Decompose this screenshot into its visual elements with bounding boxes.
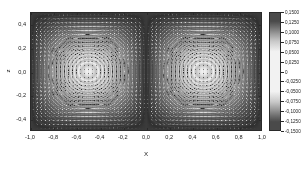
x-axis-title: X (144, 150, 148, 157)
y-tick-label: 0,2 (10, 45, 26, 51)
x-tick (193, 12, 194, 15)
x-tick (124, 128, 125, 131)
vector-field-figure: -1,0-0,8-0,6-0,4-0,20,00,20,40,60,81,0 0… (0, 0, 305, 169)
colorbar-tick (281, 101, 284, 102)
x-tick (31, 12, 32, 15)
x-tick (101, 12, 102, 15)
colorbar-tick (281, 12, 284, 13)
x-tick-label: -0,4 (95, 134, 105, 140)
x-tick (31, 128, 32, 131)
colorbar-tick-label: 0,1250 (285, 19, 299, 24)
y-tick (30, 49, 33, 50)
colorbar-tick (281, 131, 284, 132)
colorbar-tick (281, 81, 284, 82)
x-tick (147, 12, 148, 15)
colorbar-tick-label: -0,1250 (285, 119, 301, 124)
x-tick (193, 128, 194, 131)
x-tick (101, 128, 102, 131)
y-tick (259, 120, 262, 121)
colorbar-tick (281, 91, 284, 92)
colorbar-tick (281, 121, 284, 122)
x-tick (217, 12, 218, 15)
y-tick (30, 25, 33, 26)
x-tick (240, 128, 241, 131)
x-tick (170, 12, 171, 15)
colorbar-tick (281, 62, 284, 63)
x-tick-label: -0,8 (48, 134, 58, 140)
colorbar-tick-label: 0,0250 (285, 59, 299, 64)
y-tick (30, 120, 33, 121)
colorbar-tick-label: -0,1500 (285, 129, 301, 134)
colorbar-tick (281, 52, 284, 53)
colorbar-tick (281, 32, 284, 33)
colorbar-gradient (269, 12, 281, 131)
y-tick (259, 73, 262, 74)
x-tick (54, 12, 55, 15)
colorbar-tick-label: 0,0500 (285, 49, 299, 54)
x-tick (147, 128, 148, 131)
y-tick (30, 96, 33, 97)
colorbar-tick (281, 111, 284, 112)
x-tick-label: -0,6 (71, 134, 81, 140)
x-tick-label: -0,2 (118, 134, 128, 140)
y-tick-label: 0,0 (10, 69, 26, 75)
colorbar (269, 12, 281, 131)
colorbar-tick (281, 22, 284, 23)
y-tick (259, 49, 262, 50)
colorbar-tick-label: -0,1000 (285, 109, 301, 114)
x-tick (217, 128, 218, 131)
plot-area (30, 12, 262, 131)
y-tick-label: -0,4 (10, 116, 26, 122)
x-tick-label: 0,4 (188, 134, 196, 140)
colorbar-tick-label: 0,1500 (285, 10, 299, 15)
x-tick-label: 0,2 (165, 134, 173, 140)
x-tick (240, 12, 241, 15)
colorbar-tick-label: -0,0500 (285, 89, 301, 94)
colorbar-tick (281, 42, 284, 43)
colorbar-tick-label: 0,0750 (285, 39, 299, 44)
x-tick-label: 1,0 (258, 134, 266, 140)
x-tick-label: 0,8 (235, 134, 243, 140)
y-tick (259, 96, 262, 97)
x-tick-label: 0,6 (212, 134, 220, 140)
x-tick (124, 12, 125, 15)
colorbar-tick-label: -0,0750 (285, 99, 301, 104)
x-tick (77, 12, 78, 15)
colorbar-tick-label: -0,0250 (285, 79, 301, 84)
x-tick-label: -1,0 (25, 134, 35, 140)
colorbar-tick-label: 0 (285, 69, 288, 74)
vector-field-canvas (31, 13, 261, 130)
colorbar-tick-label: 0,1000 (285, 29, 299, 34)
y-tick (30, 73, 33, 74)
colorbar-tick (281, 72, 284, 73)
x-tick-label: 0,0 (142, 134, 150, 140)
x-tick (54, 128, 55, 131)
y-tick (259, 25, 262, 26)
y-tick-label: 0,4 (10, 21, 26, 27)
y-axis-title: z (4, 69, 11, 72)
y-tick-label: -0,2 (10, 92, 26, 98)
x-tick (170, 128, 171, 131)
x-tick (77, 128, 78, 131)
